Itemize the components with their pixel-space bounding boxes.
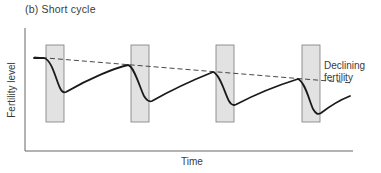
shaded-period-4 bbox=[302, 45, 320, 122]
shaded-period-1 bbox=[46, 45, 64, 122]
diagram-canvas bbox=[0, 0, 381, 173]
shaded-period-3 bbox=[216, 45, 234, 122]
shaded-period-2 bbox=[131, 45, 149, 122]
shaded-periods bbox=[46, 45, 320, 122]
